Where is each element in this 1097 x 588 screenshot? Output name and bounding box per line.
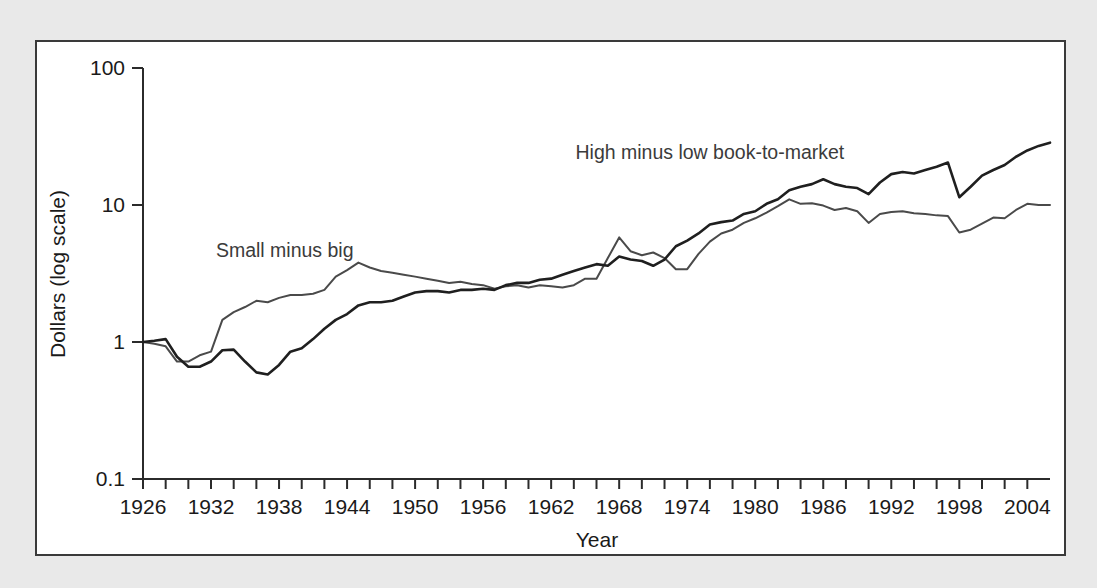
x-tick-label: 1932 xyxy=(188,495,235,518)
x-axis-tick-labels: 1926193219381944195019561962196819741980… xyxy=(120,495,1051,518)
y-tick-label: 100 xyxy=(90,56,125,79)
x-tick-label: 1998 xyxy=(936,495,983,518)
x-axis-ticks xyxy=(143,479,1027,489)
y-axis-ticks xyxy=(132,68,143,479)
x-tick-label: 1944 xyxy=(324,495,371,518)
x-tick-label: 1950 xyxy=(392,495,439,518)
x-axis-title: Year xyxy=(576,528,618,551)
annotation-small-minus-big: Small minus big xyxy=(216,239,354,261)
y-axis-title: Dollars (log scale) xyxy=(46,190,69,358)
series-annotations: Small minus bigHigh minus low book-to-ma… xyxy=(216,141,845,260)
figure-panel: 1001010.1 192619321938194419501956196219… xyxy=(35,40,1066,556)
x-tick-label: 1974 xyxy=(664,495,711,518)
y-axis-tick-labels: 1001010.1 xyxy=(90,56,125,490)
axis-lines xyxy=(143,68,1050,479)
y-tick-label: 1 xyxy=(113,330,125,353)
x-tick-label: 1992 xyxy=(868,495,915,518)
x-tick-label: 1980 xyxy=(732,495,779,518)
x-tick-label: 1938 xyxy=(256,495,303,518)
x-tick-label: 1926 xyxy=(120,495,167,518)
series-line-small-minus-big xyxy=(143,199,1050,361)
y-tick-label: 10 xyxy=(102,193,125,216)
y-tick-label: 0.1 xyxy=(96,467,125,490)
plot-frame xyxy=(143,68,1050,479)
x-tick-label: 1962 xyxy=(528,495,575,518)
annotation-high-minus-low-book-to-market: High minus low book-to-market xyxy=(575,141,844,163)
x-tick-label: 1968 xyxy=(596,495,643,518)
line-chart: 1001010.1 192619321938194419501956196219… xyxy=(37,42,1064,554)
x-tick-label: 1986 xyxy=(800,495,847,518)
x-tick-label: 1956 xyxy=(460,495,507,518)
x-tick-label: 2004 xyxy=(1004,495,1051,518)
